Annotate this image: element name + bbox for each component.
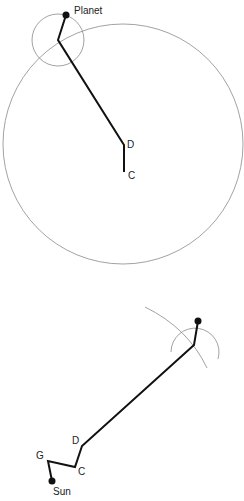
sun-label: Sun [53,486,71,497]
linkage-path [58,15,124,172]
planet-dot [63,12,70,19]
point-d-label: D [72,435,79,446]
point-c-label: C [128,170,135,181]
epicycle-diagrams: Planet D C D C G Sun [0,0,244,501]
point-g-label: G [36,450,44,461]
point-c-label: C [78,466,85,477]
bottom-diagram: D C G Sun [36,307,219,497]
sun-dot [49,478,56,485]
linkage-path [48,321,198,481]
top-diagram: Planet D C [3,5,243,264]
planet-dot [195,318,202,325]
point-d-label: D [127,139,134,150]
planet-label: Planet [74,5,103,16]
